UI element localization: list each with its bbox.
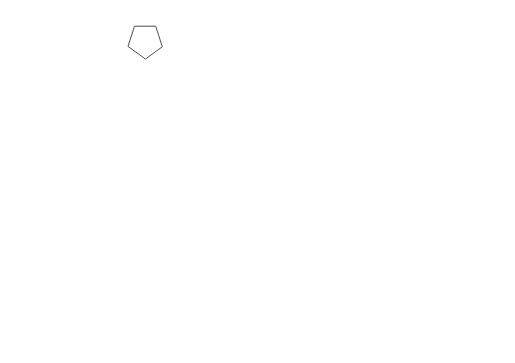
tile-edge: [128, 26, 162, 59]
tiling-figure: [0, 0, 515, 363]
tiling-canvas: [0, 0, 515, 363]
tiling-edges: [128, 26, 162, 59]
